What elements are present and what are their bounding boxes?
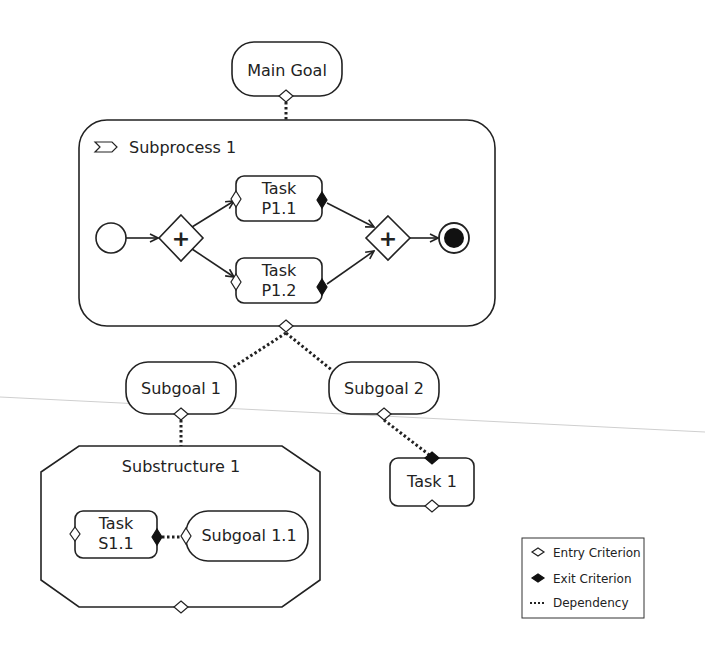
svg-text:S1.1: S1.1 — [98, 534, 134, 553]
subgoal-1-1[interactable]: Subgoal 1.1 — [186, 511, 308, 561]
task-p1-1[interactable]: Task P1.1 — [236, 176, 322, 221]
svg-text:Entry Criterion: Entry Criterion — [553, 546, 641, 560]
svg-text:Subgoal 1: Subgoal 1 — [141, 379, 221, 398]
task-p1-2[interactable]: Task P1.2 — [236, 258, 322, 303]
svg-text:P1.1: P1.1 — [261, 199, 296, 218]
svg-text:Task 1: Task 1 — [406, 472, 457, 491]
task-1[interactable]: Task 1 — [390, 458, 474, 506]
svg-text:Dependency: Dependency — [553, 596, 629, 610]
svg-text:Task: Task — [261, 261, 297, 280]
legend: Entry Criterion Exit Criterion Dependenc… — [522, 538, 644, 618]
svg-text:+: + — [379, 226, 397, 251]
task-s1-1[interactable]: Task S1.1 — [75, 511, 157, 558]
svg-text:Substructure 1: Substructure 1 — [122, 457, 240, 476]
svg-text:+: + — [172, 226, 190, 251]
svg-text:Subgoal 1.1: Subgoal 1.1 — [201, 526, 296, 545]
dependency-line — [232, 333, 286, 368]
end-event[interactable] — [439, 223, 469, 253]
subprocess-label: Subprocess 1 — [129, 138, 236, 157]
dependency-line — [384, 420, 432, 457]
main-goal[interactable]: Main Goal — [232, 42, 342, 96]
main-goal-label: Main Goal — [247, 61, 327, 80]
subgoal-1[interactable]: Subgoal 1 — [126, 362, 236, 414]
svg-text:Task: Task — [98, 514, 134, 533]
dependency-line — [286, 333, 333, 371]
svg-text:Exit Criterion: Exit Criterion — [553, 572, 632, 586]
svg-text:P1.2: P1.2 — [261, 281, 296, 300]
svg-text:Task: Task — [261, 179, 297, 198]
svg-text:Subgoal 2: Subgoal 2 — [344, 379, 424, 398]
subgoal-2[interactable]: Subgoal 2 — [329, 362, 439, 414]
goal-process-diagram: Main Goal Subprocess 1 + Task P1.1 Task … — [0, 0, 705, 654]
start-event[interactable] — [96, 223, 126, 253]
